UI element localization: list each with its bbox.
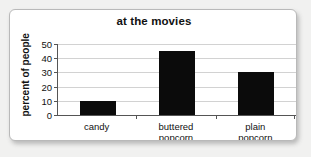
x-axis-category-label: plainpopcorn: [216, 121, 295, 141]
bar: [80, 101, 116, 115]
x-axis-category-label-line: plain: [216, 121, 295, 132]
chart-title: at the movies: [10, 15, 297, 27]
y-tick-label: 10: [30, 101, 52, 102]
x-axis-category-label-line: buttered: [136, 121, 215, 132]
bar: [238, 72, 274, 115]
y-tick-mark: [54, 87, 58, 88]
gridline: [58, 44, 296, 45]
y-tick-label: 0: [30, 115, 52, 116]
y-tick-label: 40: [30, 58, 52, 59]
x-tick-mark: [136, 115, 137, 119]
y-axis-title: percent of people: [20, 35, 31, 117]
x-axis-category-label-line: candy: [57, 121, 136, 132]
y-tick-mark: [54, 58, 58, 59]
x-axis: candybutteredpopcornplainpopcorn: [57, 115, 295, 141]
plot-area: 01020304050: [57, 44, 295, 115]
y-tick-mark: [54, 101, 58, 102]
y-tick-label: 30: [30, 72, 52, 73]
x-axis-category-label-line: popcorn: [136, 132, 215, 141]
y-tick-mark: [54, 72, 58, 73]
x-tick-mark: [216, 115, 217, 119]
x-axis-category-label-line: popcorn: [216, 132, 295, 141]
x-axis-category-label: butteredpopcorn: [136, 121, 215, 141]
y-tick-mark: [54, 44, 58, 45]
y-tick-label: 50: [30, 44, 52, 45]
x-tick-mark: [294, 115, 295, 119]
x-axis-category-label: candy: [57, 121, 136, 132]
bar: [159, 51, 195, 115]
chart-card: at the movies percent of people 01020304…: [9, 9, 297, 141]
y-tick-label: 20: [30, 87, 52, 88]
